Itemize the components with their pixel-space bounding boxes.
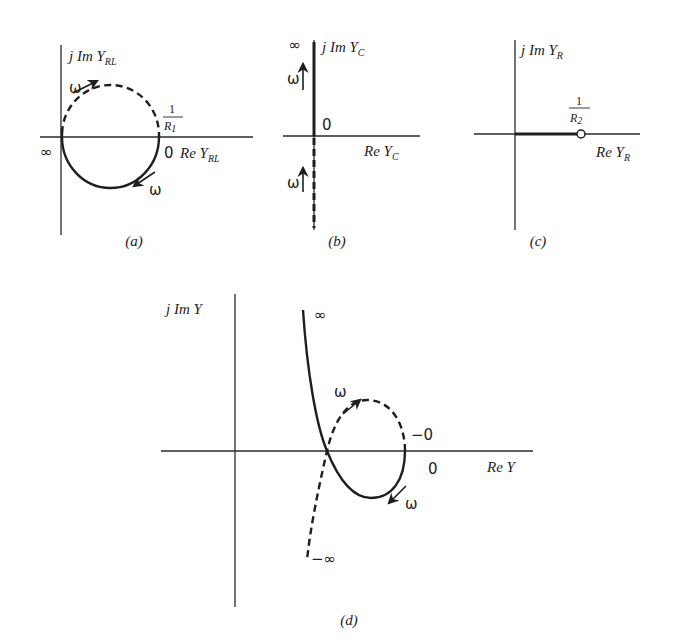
y-axis-label: j Im YR [519, 42, 563, 61]
y-axis-label: j Im Y [164, 301, 203, 317]
x-axis-label: Re YRL [179, 145, 220, 164]
infinity-label: ∞ [289, 36, 302, 54]
panel-b: ∞ j Im YC ω 0 Re YC ω (b) [283, 36, 420, 250]
y-axis-label: j Im YC [320, 39, 365, 58]
omega-upper-label: ω [334, 383, 347, 401]
direction-arrow-lower [389, 486, 406, 503]
locus-solid-lower [62, 137, 159, 188]
caption-c: (c) [530, 233, 547, 250]
panel-d: j Im Y ∞ ω −0 0 Re Y ω −∞ (d) [161, 294, 533, 629]
fraction-numerator: 1 [576, 94, 582, 108]
zero-label: 0 [428, 460, 438, 478]
caption-b: (b) [328, 233, 346, 250]
zero-label: 0 [164, 144, 174, 162]
panel-a: j Im YRL ω ω ∞ 0 Re YRL 1 R1 (a) [40, 45, 253, 250]
omega-upper-label: ω [69, 79, 82, 97]
zero-label: 0 [322, 116, 332, 134]
open-endpoint-marker [577, 130, 585, 138]
omega-lower-label: ω [405, 495, 418, 513]
omega-upper-label: ω [287, 70, 300, 88]
intercept-fraction-label: 1 R1 [163, 102, 183, 134]
infinity-label: ∞ [314, 306, 327, 324]
minus-zero-label: −0 [411, 426, 433, 444]
omega-lower-label: ω [287, 174, 300, 192]
fraction-denominator: R2 [569, 111, 582, 126]
x-axis-label: Re Y [486, 459, 517, 475]
omega-lower-label: ω [149, 181, 162, 199]
infinity-label: ∞ [40, 143, 53, 161]
fraction-numerator: 1 [169, 102, 175, 116]
minus-infinity-label: −∞ [311, 550, 336, 568]
admittance-locus-figure: j Im YRL ω ω ∞ 0 Re YRL 1 R1 (a) ∞ j Im … [0, 0, 682, 642]
point-fraction-label: 1 R2 [569, 94, 590, 126]
direction-arrow-upper [343, 400, 360, 414]
fraction-denominator: R1 [163, 119, 176, 134]
caption-a: (a) [125, 233, 143, 250]
x-axis-label: Re YR [595, 144, 630, 163]
locus-dashed [307, 400, 405, 560]
x-axis-label: Re YC [363, 143, 399, 162]
caption-d: (d) [340, 612, 358, 629]
panel-c: j Im YR 1 R2 Re YR (c) [474, 40, 640, 250]
y-axis-label: j Im YRL [67, 48, 117, 67]
